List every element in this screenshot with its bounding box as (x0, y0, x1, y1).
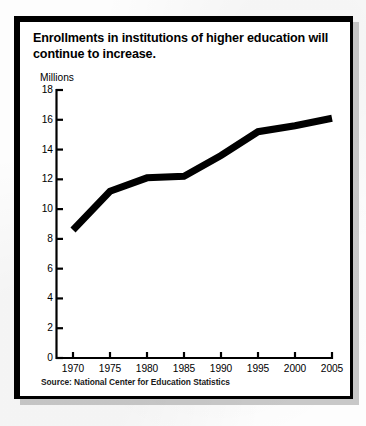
x-axis-tick-label: 2000 (278, 364, 312, 374)
source-note: Source: National Center for Education St… (41, 377, 230, 387)
y-axis-tick-label: 6 (40, 264, 53, 274)
x-axis-tick-label: 1975 (93, 364, 127, 374)
y-axis-tick-label: 8 (40, 234, 53, 244)
chart-frame: Enrollments in institutions of higher ed… (14, 16, 353, 399)
y-axis-tick-label: 14 (40, 145, 53, 155)
y-axis-tick-label: 0 (40, 353, 53, 363)
y-axis-tick-label: 2 (40, 323, 53, 333)
x-axis-tick-label: 2005 (315, 364, 349, 374)
x-axis-tick-label: 1970 (56, 364, 90, 374)
x-axis-tick-label: 1980 (130, 364, 164, 374)
y-axis-tick-label: 4 (40, 293, 53, 303)
x-axis-tick-label: 1990 (204, 364, 238, 374)
y-axis-tick-label: 12 (40, 174, 53, 184)
line-chart-svg (40, 86, 339, 362)
chart-inner: Enrollments in institutions of higher ed… (20, 22, 350, 396)
y-axis-unit-label: Millions (40, 72, 74, 83)
y-axis-tick-label: 16 (40, 115, 53, 125)
x-axis-tick-label: 1995 (241, 364, 275, 374)
y-axis-tick-label: 10 (40, 204, 53, 214)
y-axis-tick-label: 18 (40, 85, 53, 95)
enrollment-data-line (73, 118, 332, 230)
page-background: Enrollments in institutions of higher ed… (0, 0, 366, 426)
x-axis-tick-label: 1985 (167, 364, 201, 374)
chart-title: Enrollments in institutions of higher ed… (33, 31, 337, 62)
plot-area: 024681012141618 197019751980198519901995… (40, 86, 339, 362)
